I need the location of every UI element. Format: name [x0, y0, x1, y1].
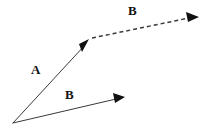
vector-label-a: A	[31, 63, 40, 76]
vector-a	[13, 39, 89, 123]
vector-label-b-upper: B	[128, 4, 137, 17]
vector-b-upper-arrowhead	[186, 12, 199, 22]
vector-b-upper-shaft	[92, 18, 189, 38]
vector-diagram: A B B	[0, 0, 209, 132]
vector-label-b-lower: B	[65, 88, 74, 101]
vector-b-upper	[92, 12, 199, 38]
vector-a-shaft	[13, 45, 85, 123]
vector-b-lower-arrowhead	[113, 93, 125, 103]
vector-b-lower-shaft	[13, 99, 116, 123]
